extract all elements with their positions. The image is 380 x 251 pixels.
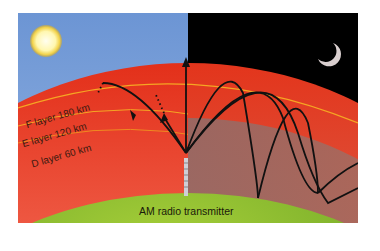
sun-icon: [30, 25, 62, 57]
ionosphere-diagram: F layer 180 km E layer 120 km D layer 60…: [18, 13, 358, 223]
transmitter-tower-icon: [184, 158, 188, 196]
transmitter-label: AM radio transmitter: [139, 205, 234, 217]
